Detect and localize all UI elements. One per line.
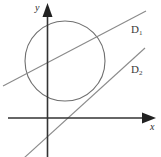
line-d2 — [24, 48, 145, 157]
x-axis-label: x — [150, 122, 154, 132]
y-axis-label: y — [35, 3, 39, 13]
line-d2-label-base: D — [131, 63, 139, 75]
circle-shape — [25, 21, 105, 101]
geometry-figure: y x D1 D2 — [0, 0, 161, 157]
line-d2-label-subscript: 2 — [139, 69, 143, 77]
line-d1-label-subscript: 1 — [139, 29, 143, 37]
y-axis-arrowhead-icon — [43, 3, 53, 17]
line-d1-label: D1 — [131, 24, 142, 35]
line-d2-label: D2 — [131, 64, 142, 75]
line-d1-label-base: D — [131, 23, 139, 35]
